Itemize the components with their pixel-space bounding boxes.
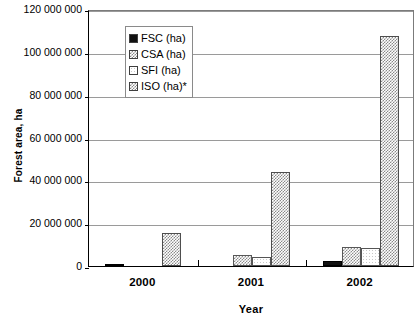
legend-label: SFI (ha) (141, 65, 181, 76)
bar (162, 233, 181, 266)
y-axis-tick-labels: 120 000 000100 000 00080 000 00060 000 0… (0, 0, 82, 324)
legend-item: FSC (ha) (129, 30, 187, 46)
legend-swatch-icon (129, 50, 138, 59)
bar (323, 261, 342, 266)
y-axis-tick-label: 0 (8, 261, 82, 272)
legend-item: CSA (ha) (129, 46, 187, 62)
y-axis-tick-label: 40 000 000 (8, 175, 82, 186)
y-axis-tick-label: 80 000 000 (8, 90, 82, 101)
x-axis-group-separator (198, 260, 199, 266)
bar (233, 255, 252, 266)
legend-label: FSC (ha) (141, 33, 186, 44)
x-axis-tick-label: 2002 (305, 276, 415, 288)
bar-group (198, 11, 307, 266)
bar-group (306, 11, 415, 266)
y-axis-tick-mark (85, 268, 89, 269)
bar (252, 257, 271, 266)
bar (342, 247, 361, 266)
y-axis-tick-label: 20 000 000 (8, 218, 82, 229)
bar-chart: Forest area, ha 120 000 000100 000 00080… (0, 0, 418, 324)
bar (380, 36, 399, 266)
chart-legend: FSC (ha)CSA (ha)SFI (ha)ISO (ha)* (125, 26, 193, 98)
y-axis-tick-label: 120 000 000 (8, 4, 82, 15)
x-axis-title: Year (88, 303, 414, 315)
legend-swatch-icon (129, 82, 138, 91)
y-axis-tick-label: 100 000 000 (8, 47, 82, 58)
legend-label: CSA (ha) (141, 49, 186, 60)
legend-swatch-icon (129, 66, 138, 75)
bar (361, 248, 380, 266)
x-axis-group-separator (306, 260, 307, 266)
bar (271, 172, 290, 266)
legend-item: SFI (ha) (129, 62, 187, 78)
legend-item: ISO (ha)* (129, 78, 187, 94)
x-axis-tick-label: 2000 (87, 276, 197, 288)
legend-swatch-icon (129, 34, 138, 43)
y-axis-tick-label: 60 000 000 (8, 133, 82, 144)
legend-label: ISO (ha)* (141, 81, 187, 92)
bar (105, 264, 124, 266)
x-axis-tick-label: 2001 (196, 276, 306, 288)
